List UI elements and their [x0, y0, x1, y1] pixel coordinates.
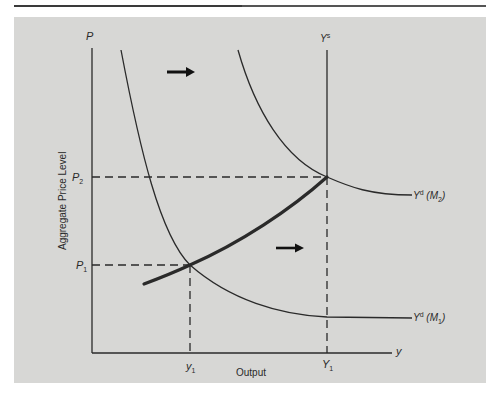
- tick-label-y1-small: y1: [185, 360, 196, 374]
- y-axis-symbol: P: [86, 30, 94, 42]
- arrow-right-icon: [276, 244, 304, 253]
- demand-curve-m2-label: Yd (M2): [413, 189, 445, 203]
- tick-label-y1-big: Y1: [322, 358, 333, 372]
- arrow-right-icon: [167, 67, 195, 77]
- adjustment-path-curve: [144, 177, 327, 284]
- x-axis-title: Output: [236, 367, 266, 378]
- x-axis-symbol: y: [395, 345, 403, 357]
- y-axis-title: Aggregate Price Level: [57, 152, 68, 250]
- ad-as-chart: P y Aggregate Price Level Output P2 P1 Y…: [0, 0, 500, 393]
- demand-curve-m2: [238, 50, 412, 195]
- tick-label-p2: P2: [72, 171, 83, 185]
- demand-curve-m1-label: Yd (M1): [413, 311, 445, 325]
- demand-curve-m1: [121, 50, 412, 318]
- tick-label-p1: P1: [76, 259, 87, 273]
- aggregate-supply-label: Ys: [320, 32, 331, 44]
